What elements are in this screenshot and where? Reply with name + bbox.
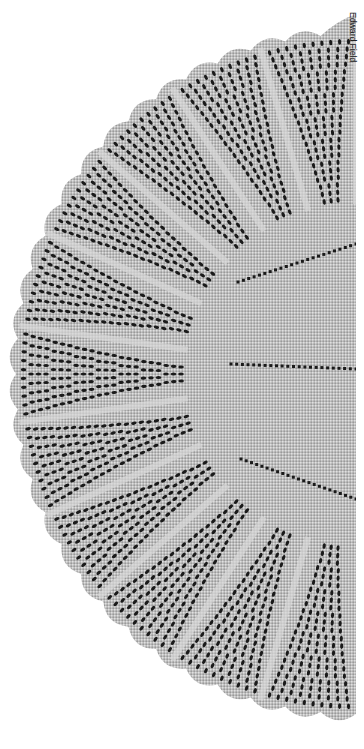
- photo-credit: Edward Field: [343, 2, 363, 72]
- lace-shawl-photo: [0, 0, 356, 749]
- photo-credit-text: Edward Field: [348, 12, 358, 62]
